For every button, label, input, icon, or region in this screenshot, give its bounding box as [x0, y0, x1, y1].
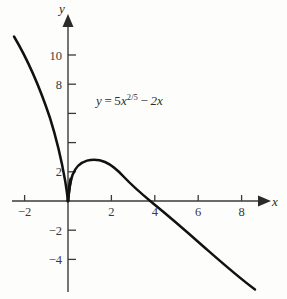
y-axis-label: y	[57, 1, 65, 16]
equation-coefficient: 5	[114, 93, 121, 108]
y-tick-label: 2	[56, 165, 62, 179]
y-tick-label: −4	[49, 253, 63, 267]
curve-right-branch	[68, 160, 255, 290]
x-tick-label: 2	[108, 205, 114, 219]
x-tick-label: 6	[195, 205, 201, 219]
equation-lhs: y	[96, 93, 102, 108]
x-axis-arrowhead	[258, 196, 271, 207]
x-tick-label: −2	[18, 205, 31, 219]
y-tick-marks	[68, 55, 76, 259]
x-axis-label: x	[271, 194, 278, 209]
x-tick-labels: −2 2 4 6 8	[18, 205, 245, 219]
y-tick-label: 8	[56, 78, 62, 92]
equation-annotation: y=5x2/5−2x	[96, 92, 163, 109]
x-tick-marks	[25, 195, 242, 201]
x-tick-label: 8	[238, 205, 244, 219]
equation-operator: −	[138, 93, 150, 108]
y-tick-label: 10	[50, 49, 63, 63]
equation-linear-term: 2x	[150, 93, 162, 108]
y-tick-label: −2	[49, 224, 62, 238]
function-graph: x y −2 2 4 6 8 10 8 2 −2 −4	[0, 0, 287, 299]
equation-equals: =	[102, 93, 114, 108]
equation-exponent: 2/5	[127, 92, 138, 102]
